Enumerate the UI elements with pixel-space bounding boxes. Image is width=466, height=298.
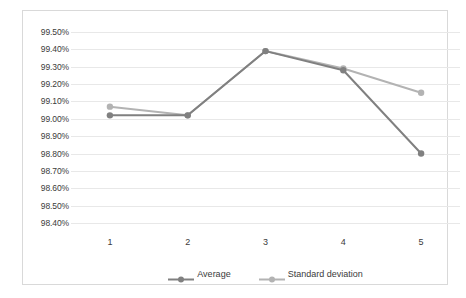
data-point-marker [340,67,346,73]
legend-swatch-icon [168,270,194,279]
x-axis: 12345 [71,238,460,252]
chart-legend: AverageStandard deviation [71,266,460,282]
legend-item-standard-deviation[interactable]: Standard deviation [259,270,363,279]
data-point-marker [418,150,424,156]
y-axis-tick-label: 99.00% [23,115,69,124]
data-point-marker [418,90,424,96]
y-axis-tick-label: 98.70% [23,167,69,176]
y-axis-tick-label: 99.40% [23,45,69,54]
legend-swatch-icon [259,270,285,279]
data-point-marker [107,103,113,109]
plot-area [71,32,460,223]
legend-label: Average [197,270,230,279]
legend-item-average[interactable]: Average [168,270,230,279]
data-point-marker [107,112,113,118]
data-point-marker [185,112,191,118]
data-point-marker [262,48,268,54]
y-axis-tick-label: 99.50% [23,28,69,37]
y-axis-tick-label: 98.80% [23,150,69,159]
x-axis-tick-label: 4 [328,238,358,247]
y-axis-tick-label: 98.90% [23,132,69,141]
series-line-average [110,51,421,153]
y-axis-tick-label: 99.10% [23,97,69,106]
chart-container: 99.50%99.40%99.30%99.20%99.10%99.00%98.9… [22,10,448,285]
y-axis: 99.50%99.40%99.30%99.20%99.10%99.00%98.9… [23,32,69,223]
y-axis-tick-label: 98.40% [23,219,69,228]
series-layer [71,32,460,223]
gridline [71,223,460,224]
y-axis-tick-label: 98.50% [23,202,69,211]
y-axis-tick-label: 98.60% [23,184,69,193]
y-axis-tick-label: 99.20% [23,80,69,89]
x-axis-tick-label: 3 [251,238,281,247]
legend-label: Standard deviation [288,270,363,279]
x-axis-tick-label: 1 [95,238,125,247]
x-axis-tick-label: 5 [406,238,436,247]
x-axis-tick-label: 2 [173,238,203,247]
y-axis-tick-label: 99.30% [23,63,69,72]
series-line-standard-deviation [110,51,421,115]
